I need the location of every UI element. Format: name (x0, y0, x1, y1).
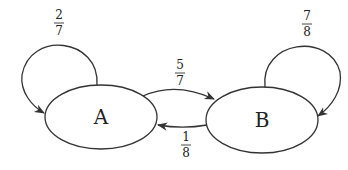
label-b-a-den: 8 (182, 146, 190, 160)
state-b: B (206, 87, 318, 153)
label-a-a-num: 2 (55, 8, 63, 22)
label-b-b-den: 8 (303, 25, 311, 39)
label-b-a-num: 1 (182, 130, 190, 144)
label-b-b-num: 7 (303, 9, 311, 23)
state-a-label: A (93, 105, 109, 129)
transition-b-a: 1 8 (158, 125, 207, 160)
label-a-a-den: 7 (55, 24, 63, 38)
transition-b-b: 7 8 (265, 9, 341, 116)
label-a-b-den: 7 (176, 74, 184, 88)
state-b-label: B (255, 108, 270, 132)
label-a-b-num: 5 (176, 58, 184, 72)
state-a: A (45, 85, 157, 149)
transition-a-b: 5 7 (143, 58, 214, 99)
transition-a-a: 2 7 (22, 8, 97, 113)
markov-diagram: A B 2 7 5 7 1 8 7 8 (0, 0, 348, 170)
